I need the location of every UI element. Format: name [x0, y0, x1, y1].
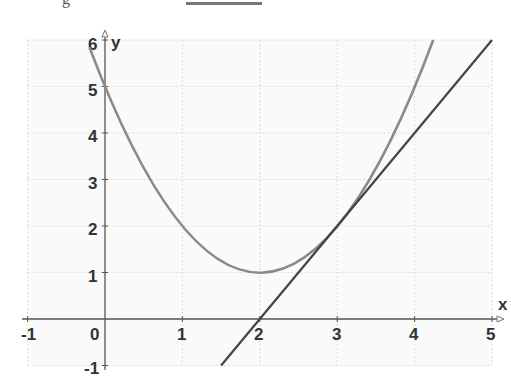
x-tick-label: 2 [254, 325, 263, 344]
x-tick-label: 4 [409, 325, 419, 344]
graph: -1 0 1 2 3 4 5 6 5 4 3 2 1 -1 y x [0, 0, 511, 385]
x-tick-label: 3 [332, 325, 341, 344]
y-tick-label: 2 [88, 220, 97, 239]
x-tick-label: 5 [486, 325, 495, 344]
x-tick-label: -1 [21, 325, 36, 344]
x-tick-label: 0 [90, 325, 99, 344]
y-tick-label: 1 [88, 267, 97, 286]
y-tick-label: 4 [88, 127, 98, 146]
y-tick-label: 5 [88, 81, 97, 100]
x-axis-arrow-icon [497, 316, 504, 322]
y-axis-arrow-icon [102, 30, 108, 37]
y-axis-label: y [111, 33, 121, 52]
y-tick-label: -1 [84, 359, 99, 378]
x-tick-label: 1 [177, 325, 186, 344]
y-tick-label: 6 [88, 35, 97, 54]
x-axis-label: x [498, 295, 508, 314]
y-tick-label: 3 [88, 174, 97, 193]
